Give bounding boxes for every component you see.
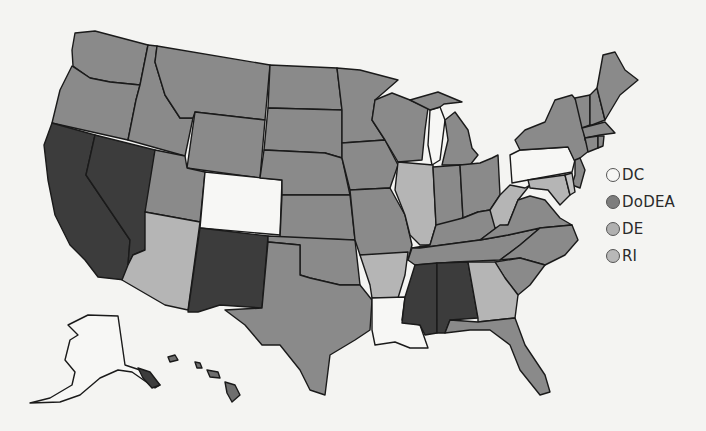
state-ct xyxy=(585,136,598,152)
legend-label: RI xyxy=(622,247,637,265)
legend: DC DoDEA DE RI xyxy=(606,163,675,271)
legend-swatch-de-icon xyxy=(606,222,620,236)
legend-item-dodea: DoDEA xyxy=(606,190,675,213)
state-ar xyxy=(360,252,408,298)
lake-michigan xyxy=(428,107,445,165)
state-ms xyxy=(402,263,437,335)
state-nd xyxy=(268,65,342,110)
us-states-map xyxy=(0,0,706,431)
state-me xyxy=(597,52,638,120)
legend-label: DoDEA xyxy=(622,193,675,211)
state-hi xyxy=(168,355,240,402)
legend-item-dc: DC xyxy=(606,163,675,186)
state-in xyxy=(433,165,463,225)
legend-item-ri: RI xyxy=(606,244,675,267)
state-wy xyxy=(187,112,265,178)
legend-label: DC xyxy=(622,166,644,184)
state-fl xyxy=(445,318,550,395)
state-ks xyxy=(280,195,355,240)
legend-swatch-dodea-icon xyxy=(606,195,620,209)
legend-swatch-ri-icon xyxy=(606,249,620,263)
legend-item-de: DE xyxy=(606,217,675,240)
state-co xyxy=(200,172,282,235)
legend-swatch-dc-icon xyxy=(606,168,620,182)
state-nm xyxy=(188,228,268,312)
state-ak xyxy=(30,315,160,403)
state-ri xyxy=(598,136,604,148)
legend-label: DE xyxy=(622,220,643,238)
